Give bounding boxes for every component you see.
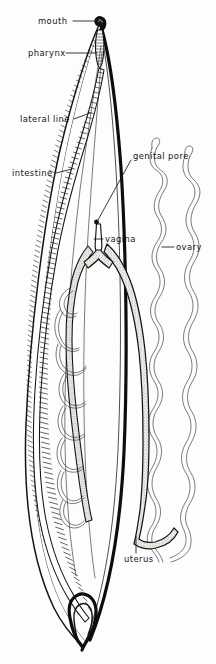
label-genital-pore: genital pore: [133, 151, 189, 161]
label-mouth: mouth: [38, 16, 67, 26]
oviduct-coils: [55, 246, 93, 528]
label-ovary: ovary: [176, 242, 202, 252]
genital-pore-organ: [94, 220, 98, 224]
anatomy-figure: mouth pharynx lateral line intestine gen…: [0, 0, 216, 664]
label-pharynx: pharynx: [28, 48, 66, 58]
label-lateral-line: lateral line: [20, 114, 70, 124]
nematode-anatomy-diagram: mouth pharynx lateral line intestine gen…: [0, 0, 216, 664]
label-uterus: uterus: [124, 554, 154, 564]
leader-genital-pore: [98, 160, 131, 220]
uterus-organ: [104, 244, 178, 549]
label-vagina: vagina: [105, 234, 136, 244]
ovary-organ: [147, 138, 200, 562]
leader-intestine: [56, 169, 72, 173]
pharynx-organ: [96, 30, 104, 68]
label-intestine: intestine: [12, 168, 53, 178]
